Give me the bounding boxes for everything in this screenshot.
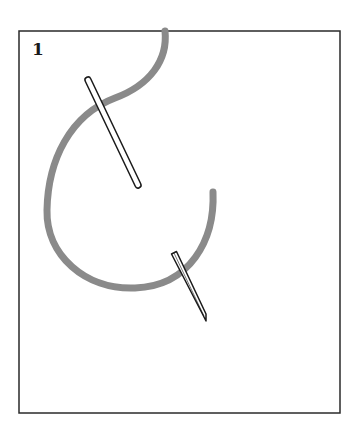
knitting-illustration: 1 bbox=[0, 0, 362, 436]
step-number: 1 bbox=[32, 41, 44, 58]
illustration-canvas bbox=[0, 0, 362, 436]
figure-frame bbox=[19, 31, 340, 413]
